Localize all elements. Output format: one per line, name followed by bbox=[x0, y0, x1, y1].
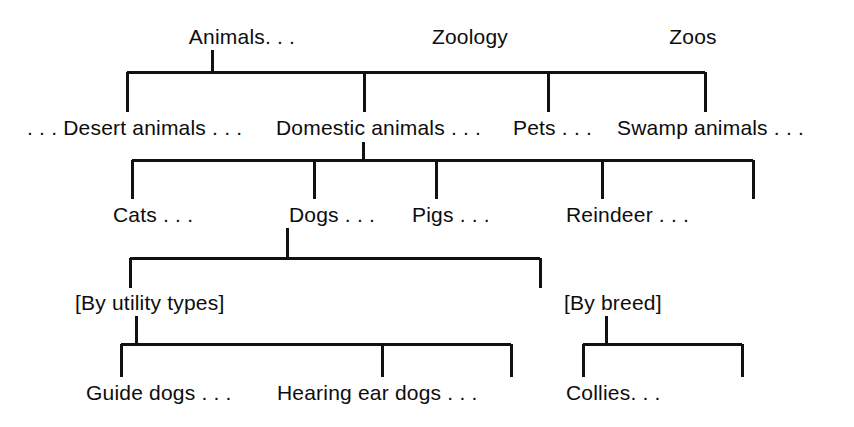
node-label-animals: Animals. . . bbox=[189, 25, 295, 48]
node-label-swamp-animals: Swamp animals . . . bbox=[617, 116, 804, 139]
level-5-labels: Guide dogs . . . Hearing ear dogs . . . … bbox=[86, 381, 661, 404]
level-4-labels: [By utility types] [By breed] bbox=[75, 291, 662, 314]
level-1-labels: Animals. . . Zoology Zoos bbox=[189, 25, 717, 48]
node-label-pets: Pets . . . bbox=[513, 116, 592, 139]
node-label-reindeer: Reindeer . . . bbox=[566, 203, 689, 226]
node-label-cats: Cats . . . bbox=[113, 203, 193, 226]
node-label-hearing-ear-dogs: Hearing ear dogs . . . bbox=[277, 381, 478, 404]
node-label-dogs: Dogs . . . bbox=[289, 203, 375, 226]
node-label-domestic-animals: Domestic animals . . . bbox=[276, 116, 481, 139]
node-label-pigs: Pigs . . . bbox=[412, 203, 490, 226]
level-2-labels: . . . Desert animals . . . Domestic anim… bbox=[27, 116, 804, 139]
node-label-desert-animals: . . . Desert animals . . . bbox=[27, 116, 242, 139]
node-label-collies: Collies. . . bbox=[566, 381, 661, 404]
hierarchy-diagram: Animals. . . Zoology Zoos . . . Desert a… bbox=[0, 0, 854, 427]
node-label-zoos: Zoos bbox=[669, 25, 717, 48]
node-label-zoology: Zoology bbox=[432, 25, 508, 48]
node-label-by-utility-types: [By utility types] bbox=[75, 291, 224, 314]
tree-canvas: Animals. . . Zoology Zoos . . . Desert a… bbox=[0, 0, 854, 427]
node-label-by-breed: [By breed] bbox=[564, 291, 662, 314]
level-3-labels: Cats . . . Dogs . . . Pigs . . . Reindee… bbox=[113, 203, 689, 226]
node-label-guide-dogs: Guide dogs . . . bbox=[86, 381, 232, 404]
